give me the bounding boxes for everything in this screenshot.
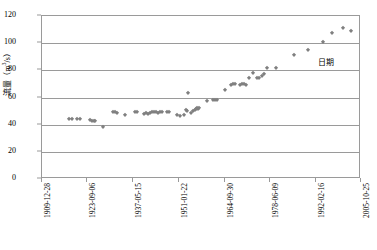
- y-tick-mark: [37, 42, 41, 43]
- y-tick-label: 20: [8, 147, 16, 155]
- x-tick-mark: [360, 178, 361, 182]
- data-point: [292, 53, 297, 58]
- data-point: [244, 82, 249, 87]
- data-point: [251, 71, 256, 76]
- data-point: [160, 110, 165, 115]
- x-tick-label: 1992-02-16: [318, 183, 326, 218]
- data-point: [205, 99, 210, 104]
- data-point: [247, 76, 252, 81]
- y-tick-mark: [37, 69, 41, 70]
- gridline-y-20: [42, 152, 359, 153]
- y-axis-title-tail: /s）: [3, 49, 12, 62]
- x-tick-mark: [86, 178, 87, 182]
- data-point: [233, 82, 238, 87]
- data-point: [330, 31, 335, 36]
- y-axis-title-superscript: 3: [1, 63, 7, 66]
- x-tick-label: 1978-06-09: [272, 183, 280, 218]
- data-point: [167, 110, 172, 115]
- data-point: [306, 48, 311, 53]
- y-tick-mark: [37, 150, 41, 151]
- x-tick-label: 2005-10-25: [363, 183, 371, 218]
- y-tick-mark: [37, 123, 41, 124]
- y-tick-mark: [37, 15, 41, 16]
- y-tick-label: 40: [8, 120, 16, 128]
- data-point: [265, 65, 270, 70]
- gridline-y-80: [42, 70, 359, 71]
- data-point: [115, 111, 120, 116]
- data-point: [78, 117, 83, 122]
- scatter-chart: 020406080100120 流量（m3/s） 1909-12-281923-…: [0, 0, 377, 250]
- y-tick-label: 120: [4, 11, 16, 19]
- data-point: [341, 26, 346, 31]
- x-tick-label: 1964-09-30: [227, 183, 235, 218]
- data-point: [70, 117, 75, 122]
- data-point: [135, 110, 140, 115]
- x-axis: 1909-12-281923-09-061937-05-151951-01-22…: [0, 178, 377, 250]
- x-tick-label: 1909-12-28: [44, 183, 52, 218]
- x-tick-label: 1923-09-06: [89, 183, 97, 218]
- x-tick-mark: [41, 178, 42, 182]
- data-point: [93, 118, 98, 123]
- data-point: [186, 90, 191, 95]
- y-axis-title-base: 流量（m: [3, 66, 12, 96]
- x-tick-mark: [224, 178, 225, 182]
- data-point: [349, 29, 354, 34]
- x-tick-mark: [132, 178, 133, 182]
- data-point: [223, 88, 228, 93]
- y-tick-mark: [37, 96, 41, 97]
- plot-area: [41, 15, 360, 178]
- x-tick-mark: [315, 178, 316, 182]
- y-axis-title: 流量（m3/s）: [3, 35, 12, 111]
- gridline-y-100: [42, 43, 359, 44]
- x-tick-mark: [269, 178, 270, 182]
- data-point: [274, 65, 279, 70]
- gridline-y-40: [42, 125, 359, 126]
- gridline-y-60: [42, 98, 359, 99]
- x-tick-mark: [178, 178, 179, 182]
- x-tick-label: 1951-01-22: [181, 183, 189, 218]
- x-axis-title: 日期: [318, 58, 334, 67]
- data-point: [123, 113, 128, 118]
- x-tick-label: 1937-05-15: [135, 183, 143, 218]
- data-point: [182, 113, 187, 118]
